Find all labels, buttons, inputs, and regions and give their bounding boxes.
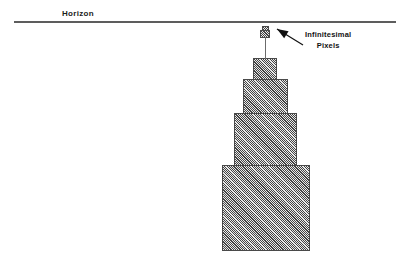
pixel-block-1 (234, 113, 297, 166)
horizon-line (14, 21, 396, 23)
pixel-block-2 (243, 79, 288, 114)
horizon-label: Horizon (62, 9, 94, 18)
mast-line (265, 37, 266, 59)
pixel-block-0 (222, 165, 310, 251)
diagram-canvas: Horizon Infinitesimal Pixels (0, 0, 400, 264)
arrowhead-icon (277, 29, 289, 38)
leader-line (277, 29, 303, 45)
pixel-block-3 (253, 58, 277, 80)
annotation-label: Infinitesimal Pixels (305, 30, 351, 52)
